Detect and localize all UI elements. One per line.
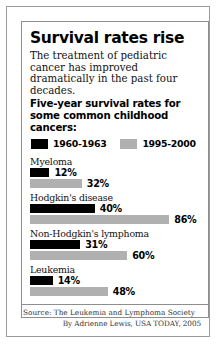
chart-row: Hodgkin's disease 40% 86% xyxy=(30,192,200,224)
bar-value-hodgkins-1960-1963: 40% xyxy=(100,203,122,214)
row-label-hodgkins-disease: Hodgkin's disease xyxy=(30,192,200,203)
bar-hodgkins-1995-2000 xyxy=(30,215,169,224)
bar-value-leukemia-1960-1963: 14% xyxy=(58,275,80,286)
chart-subtitle: Five-year survival rates for some common… xyxy=(30,98,200,133)
bar-myeloma-1995-2000 xyxy=(30,179,82,188)
page-title: Survival rates rise xyxy=(30,29,200,47)
bar-value-non-hodgkins-1960-1963: 31% xyxy=(85,239,107,250)
bar-non-hodgkins-1995-2000 xyxy=(30,251,127,260)
bar-value-leukemia-1995-2000: 48% xyxy=(113,286,135,297)
bar-group-hodgkins-1995-2000: 86% xyxy=(30,215,200,224)
bar-group-leukemia-1960-1963: 14% xyxy=(30,276,200,285)
row-label-myeloma: Myeloma xyxy=(30,156,200,167)
bar-group-leukemia-1995-2000: 48% xyxy=(30,287,200,296)
bar-group-myeloma-1960-1963: 12% xyxy=(30,168,200,177)
infographic-card: Survival rates rise The treatment of ped… xyxy=(0,0,216,350)
legend-entry-1960-1963: 1960-1963 xyxy=(31,138,106,149)
bar-value-non-hodgkins-1995-2000: 60% xyxy=(132,250,154,261)
source-note: Source: The Leukemia and Lymphoma Societ… xyxy=(22,304,208,317)
deck-text: The treatment of pediatric cancer has im… xyxy=(30,50,200,96)
bar-value-myeloma-1995-2000: 32% xyxy=(87,178,109,189)
legend-label-1960-1963: 1960-1963 xyxy=(53,138,106,149)
legend-swatch-1995-2000 xyxy=(120,139,137,149)
bar-myeloma-1960-1963 xyxy=(30,168,49,177)
bar-group-non-hodgkins-1960-1963: 31% xyxy=(30,240,200,249)
outer-border: Survival rates rise The treatment of ped… xyxy=(6,6,210,337)
bar-value-hodgkins-1995-2000: 86% xyxy=(174,214,196,225)
byline: By Adrienne Lewis, USA TODAY, 2005 xyxy=(63,319,201,328)
bar-leukemia-1960-1963 xyxy=(30,276,53,285)
row-label-leukemia: Leukemia xyxy=(30,264,200,275)
chart-panel: Survival rates rise The treatment of ped… xyxy=(21,21,209,318)
bar-group-myeloma-1995-2000: 32% xyxy=(30,179,200,188)
chart-legend: 1960-1963 1995-2000 xyxy=(31,138,200,149)
row-label-non-hodgkins-lymphoma: Non-Hodgkin's lymphoma xyxy=(30,228,200,239)
bar-value-myeloma-1960-1963: 12% xyxy=(54,167,76,178)
chart-rows: Myeloma 12% 32% Hodgkin's disease xyxy=(30,156,200,296)
bar-group-non-hodgkins-1995-2000: 60% xyxy=(30,251,200,260)
bar-leukemia-1995-2000 xyxy=(30,287,108,296)
legend-label-1995-2000: 1995-2000 xyxy=(142,138,195,149)
bar-non-hodgkins-1960-1963 xyxy=(30,240,80,249)
chart-row: Leukemia 14% 48% xyxy=(30,264,200,296)
bar-group-hodgkins-1960-1963: 40% xyxy=(30,204,200,213)
bar-hodgkins-1960-1963 xyxy=(30,204,95,213)
legend-entry-1995-2000: 1995-2000 xyxy=(120,138,195,149)
chart-row: Myeloma 12% 32% xyxy=(30,156,200,188)
legend-swatch-1960-1963 xyxy=(31,139,48,149)
chart-row: Non-Hodgkin's lymphoma 31% 60% xyxy=(30,228,200,260)
